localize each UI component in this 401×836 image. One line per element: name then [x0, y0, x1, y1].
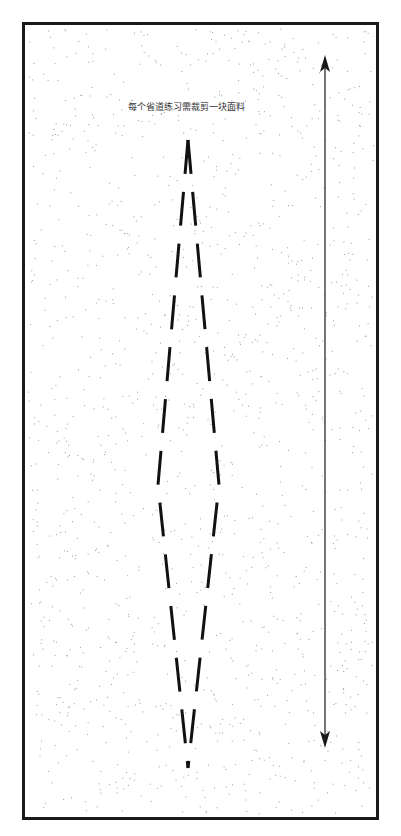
dart-outline — [158, 140, 219, 768]
instruction-caption: 每个省道练习需裁剪一块面料 — [128, 100, 288, 113]
grain-line-arrow — [320, 55, 330, 748]
diagram-canvas — [0, 0, 401, 836]
fabric-texture — [28, 29, 374, 815]
